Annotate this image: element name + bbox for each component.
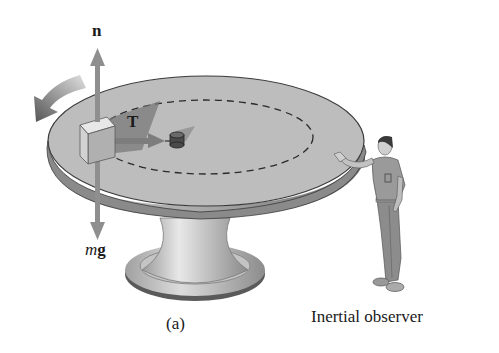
normal-force-label: n bbox=[92, 21, 101, 41]
mass-symbol: m bbox=[85, 240, 97, 259]
table-pedestal bbox=[125, 218, 265, 301]
weight-label: mg bbox=[85, 240, 106, 260]
inertial-observer-figure bbox=[334, 136, 405, 291]
center-peg bbox=[170, 132, 184, 148]
observer-label: Inertial observer bbox=[311, 307, 423, 327]
tension-label: T bbox=[127, 112, 138, 132]
block bbox=[80, 117, 115, 164]
figure-caption: (a) bbox=[166, 314, 185, 334]
physics-diagram: n T mg (a) Inertial observer bbox=[0, 0, 499, 353]
gravity-symbol: g bbox=[97, 240, 106, 259]
